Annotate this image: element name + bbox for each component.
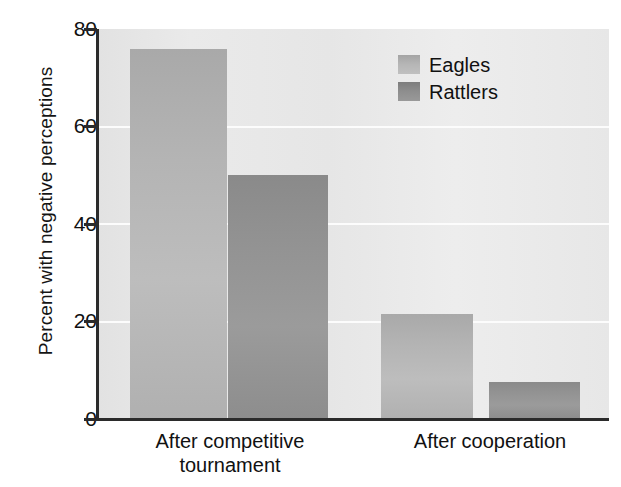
bar-rattlers-after-cooperation[interactable] bbox=[489, 382, 580, 419]
legend-swatch-eagles-icon bbox=[398, 55, 420, 74]
plot-area bbox=[99, 29, 609, 419]
bar-chart-figure: Percent with negative perceptions 0 20 4… bbox=[0, 0, 621, 487]
x-axis-label-group-1-line-0: After cooperation bbox=[375, 430, 605, 454]
bar-rattlers-after-competitive-tournament[interactable] bbox=[228, 175, 328, 419]
legend-item-rattlers[interactable]: Rattlers bbox=[398, 79, 498, 104]
legend-label-eagles: Eagles bbox=[429, 55, 490, 75]
bar-eagles-after-competitive-tournament[interactable] bbox=[130, 49, 227, 420]
legend: Eagles Rattlers bbox=[398, 52, 498, 106]
x-axis-label-group-1: After cooperation bbox=[375, 430, 605, 454]
legend-swatch-rattlers-icon bbox=[398, 82, 420, 101]
y-axis-title: Percent with negative perceptions bbox=[35, 11, 57, 411]
bar-eagles-after-cooperation[interactable] bbox=[381, 314, 473, 419]
legend-label-rattlers: Rattlers bbox=[429, 82, 498, 102]
x-axis-label-group-0-line-0: After competitive bbox=[110, 430, 350, 454]
x-axis-line bbox=[96, 418, 609, 421]
legend-item-eagles[interactable]: Eagles bbox=[398, 52, 498, 77]
x-axis-label-group-0-line-1: tournament bbox=[110, 454, 350, 478]
x-axis-label-group-0: After competitive tournament bbox=[110, 430, 350, 477]
y-axis-line bbox=[96, 29, 99, 420]
